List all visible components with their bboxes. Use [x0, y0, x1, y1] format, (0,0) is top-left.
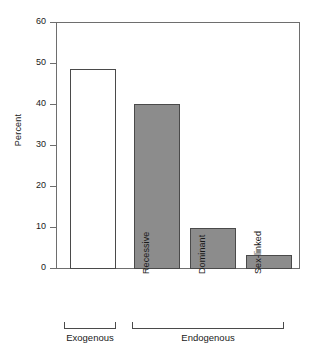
y-tick-label-60: 60: [36, 16, 46, 26]
x-tick-label-recessive: Recessive: [141, 232, 151, 274]
y-axis-title: Percent: [13, 90, 23, 170]
group-bracket-endogenous: [132, 322, 284, 329]
bars-layer: [56, 22, 300, 269]
group-label-endogenous: Endogenous: [146, 332, 270, 343]
y-tick-label-30: 30: [36, 139, 46, 149]
bar-chart-figure: Percent 60 50 40 30 20 10 0 Recessive Do…: [0, 0, 315, 359]
y-tick-label-50: 50: [36, 57, 46, 67]
y-tick-label-10: 10: [36, 221, 46, 231]
bar-exogenous: [70, 69, 116, 269]
y-tick-label-0: 0: [41, 262, 46, 272]
y-tick-label-20: 20: [36, 180, 46, 190]
x-tick-label-sex-linked: Sex-linked: [253, 231, 263, 274]
x-tick-label-dominant: Dominant: [197, 235, 207, 274]
group-bracket-exogenous: [64, 322, 116, 329]
group-label-exogenous: Exogenous: [54, 332, 126, 343]
y-tick-label-40: 40: [36, 98, 46, 108]
